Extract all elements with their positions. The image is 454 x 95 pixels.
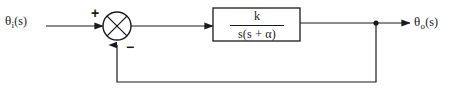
transfer-function-numerator: k	[254, 10, 260, 24]
input-signal-label: θi(s)	[5, 14, 27, 30]
summing-junction-minus-sign: −	[126, 40, 134, 54]
block-diagram-canvas: θi(s) θo(s) + − k s(s + α)	[0, 0, 454, 95]
transfer-function-expression: k s(s + α)	[214, 9, 300, 41]
output-signal-label: θo(s)	[414, 15, 438, 31]
transfer-function-denominator: s(s + α)	[238, 27, 276, 41]
summing-junction-plus-sign: +	[91, 6, 99, 20]
output-argument: (s)	[425, 15, 438, 29]
input-argument: (s)	[14, 14, 27, 28]
transfer-function-fraction-bar	[230, 25, 284, 26]
